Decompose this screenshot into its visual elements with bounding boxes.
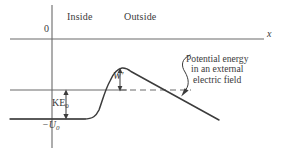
x-axis-label: x bbox=[267, 29, 271, 40]
potential-energy-diagram: Inside Outside 0 x W′ KE0 −U0 Potential … bbox=[0, 0, 281, 161]
kinetic-energy-label-subscript: 0 bbox=[65, 102, 69, 110]
region-label-outside: Outside bbox=[124, 12, 157, 23]
barrier-work-label: W′ bbox=[113, 71, 124, 82]
kinetic-energy-label-text: KE bbox=[52, 97, 65, 108]
annotation-line-3: electric field bbox=[186, 75, 248, 85]
well-depth-label-text: −U bbox=[42, 119, 56, 130]
origin-label: 0 bbox=[44, 24, 49, 35]
well-depth-label: −U0 bbox=[42, 120, 59, 131]
kinetic-energy-label: KE0 bbox=[52, 98, 69, 109]
region-label-inside: Inside bbox=[67, 12, 93, 23]
annotation-text: Potential energy in an external electric… bbox=[186, 54, 248, 85]
well-depth-label-subscript: 0 bbox=[56, 124, 60, 132]
